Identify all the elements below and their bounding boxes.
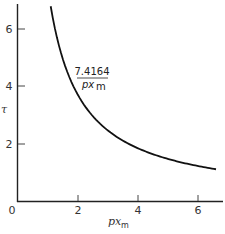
annotation-denominator-sub: m <box>96 81 106 92</box>
chart: 6 4 2 0 2 4 6 τ px m 7.4164 px m <box>0 0 225 234</box>
y-tick-label-4: 4 <box>6 80 13 93</box>
origin-label: 0 <box>9 204 16 217</box>
curve-7.4164-over-pxm <box>51 6 216 169</box>
x-tick-label-6: 6 <box>195 204 202 217</box>
y-tick-label-6: 6 <box>6 23 13 36</box>
svg-text:px: px <box>108 215 122 228</box>
curve-annotation: 7.4164 px m <box>75 66 110 92</box>
annotation-denominator: px <box>81 79 94 90</box>
x-axis-label: px m <box>108 215 129 230</box>
y-axis-label: τ <box>1 103 8 116</box>
x-tick-label-4: 4 <box>135 204 142 217</box>
y-tick-label-2: 2 <box>6 138 13 151</box>
svg-text:m: m <box>121 221 129 230</box>
annotation-numerator: 7.4164 <box>75 66 110 77</box>
x-tick-label-2: 2 <box>75 204 82 217</box>
